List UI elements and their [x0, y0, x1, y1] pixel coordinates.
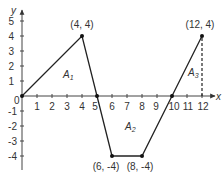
point-label-4-4: (4, 4) [70, 19, 93, 30]
point-label-6-neg4: (6, -4) [93, 161, 120, 172]
svg-text:1: 1 [8, 76, 14, 87]
svg-text:12: 12 [197, 101, 209, 112]
svg-text:4: 4 [8, 31, 14, 42]
region-label-a3: A3 [187, 67, 199, 79]
svg-text:-3: -3 [8, 136, 17, 147]
svg-text:-1: -1 [8, 106, 17, 117]
svg-text:2: 2 [49, 101, 55, 112]
origin-label: 0 [14, 95, 20, 106]
svg-text:1: 1 [34, 101, 40, 112]
svg-text:-4: -4 [8, 151, 17, 162]
svg-text:9: 9 [153, 101, 159, 112]
svg-text:7: 7 [124, 101, 130, 112]
svg-text:11: 11 [183, 101, 194, 112]
svg-text:5: 5 [92, 101, 98, 112]
area-graph: x y 0 1 2 3 4 5 6 7 8 9 10 11 12 [0, 0, 223, 173]
svg-text:4: 4 [79, 101, 85, 112]
point-label-12-4: (12, 4) [186, 19, 215, 30]
svg-text:-2: -2 [8, 121, 17, 132]
y-axis-label: y [10, 5, 17, 16]
svg-text:6: 6 [109, 101, 115, 112]
svg-text:8: 8 [139, 101, 145, 112]
x-tick-labels: 1 2 3 4 5 6 7 8 9 10 11 12 [34, 101, 209, 112]
svg-text:2: 2 [8, 61, 14, 72]
svg-text:5: 5 [8, 16, 14, 27]
y-tick-labels: -4 -3 -2 -1 1 2 3 4 5 [8, 16, 17, 162]
region-label-a2: A2 [124, 121, 136, 133]
x-axis-label: x [215, 91, 222, 102]
svg-text:3: 3 [8, 46, 14, 57]
point-label-8-neg4: (8, -4) [127, 161, 154, 172]
svg-text:3: 3 [64, 101, 70, 112]
region-label-a1: A1 [62, 69, 74, 81]
svg-text:10: 10 [168, 101, 180, 112]
